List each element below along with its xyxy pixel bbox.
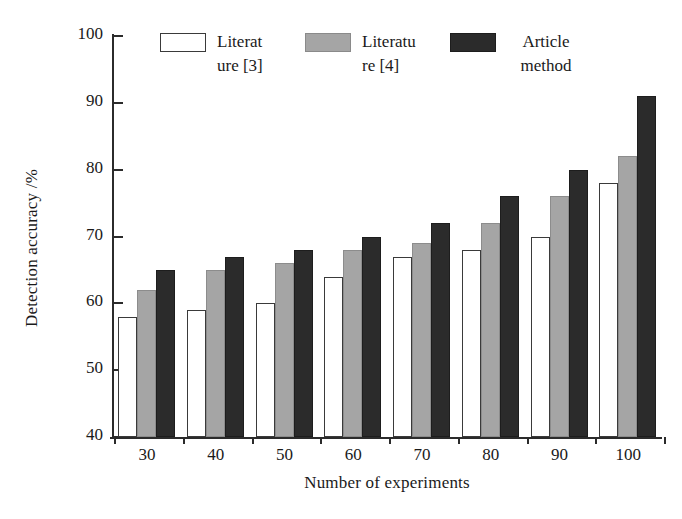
bar [324,277,343,437]
legend-label: Article method [507,30,585,78]
bar [137,290,156,437]
legend-label: Literatu re [4] [362,30,440,78]
bar-group [462,36,531,437]
bar-chart-figure: Detection accuracy /% 405060708090100 30… [0,0,682,519]
legend-item: Literatu re [4] [305,30,440,78]
x-tick-mark [183,437,185,444]
bar [462,250,481,437]
bar-group [599,36,668,437]
bar-group [118,36,187,437]
bar [118,317,137,437]
x-tick-label: 50 [255,445,315,465]
x-axis-title: Number of experiments [112,473,662,493]
x-tick-mark [527,437,529,444]
legend-item: Literat ure [3] [160,30,295,78]
bar [531,237,550,438]
bar [362,237,381,438]
bar-groups [112,36,662,437]
bar [225,257,244,437]
y-tick-label: 90 [86,91,112,111]
x-axis-line [110,437,662,439]
x-tick-label: 60 [323,445,383,465]
x-tick-mark [114,437,116,444]
x-tick-mark [664,437,666,444]
legend-swatch [450,33,496,52]
bar [275,263,294,437]
bar [569,170,588,437]
bar-group [324,36,393,437]
bar-group [531,36,600,437]
y-axis-title: Detection accuracy /% [22,98,42,398]
y-tick-label: 50 [86,358,112,378]
x-tick-label: 90 [530,445,590,465]
legend-item: Article method [450,30,585,78]
bar [500,196,519,437]
x-tick-mark [595,437,597,444]
bar [156,270,175,437]
x-tick-mark [320,437,322,444]
bar [206,270,225,437]
x-tick-label: 30 [117,445,177,465]
chart-legend: Literat ure [3]Literatu re [4]Article me… [160,30,580,88]
bar [256,303,275,437]
bar [431,223,450,437]
bar [187,310,206,437]
bar [412,243,431,437]
bar [481,223,500,437]
bar [393,257,412,437]
bar [599,183,618,437]
y-tick-label: 80 [86,158,112,178]
x-tick-label: 100 [598,445,658,465]
bar [294,250,313,437]
legend-swatch [305,33,351,52]
legend-swatch [160,33,206,52]
legend-label: Literat ure [3] [217,30,295,78]
bar-group [393,36,462,437]
x-tick-mark [458,437,460,444]
x-tick-label: 40 [186,445,246,465]
bar [637,96,656,437]
bar [343,250,362,437]
x-tick-label: 80 [461,445,521,465]
y-tick-label: 70 [86,225,112,245]
bar-group [256,36,325,437]
y-tick-label: 60 [86,291,112,311]
bar [618,156,637,437]
y-tick-label: 100 [78,24,113,44]
y-tick-label: 40 [86,425,112,445]
x-tick-mark [389,437,391,444]
bar-group [187,36,256,437]
x-tick-label: 70 [392,445,452,465]
x-tick-mark [252,437,254,444]
bar [550,196,569,437]
